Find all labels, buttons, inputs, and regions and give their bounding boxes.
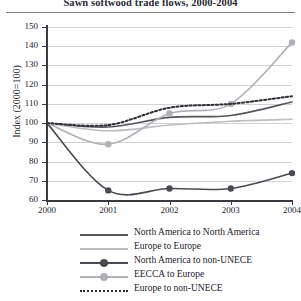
y-tick-label: 90	[0, 136, 38, 146]
plot-area	[47, 27, 292, 200]
legend-label: Europe to Europe	[134, 241, 201, 251]
series-layer	[47, 27, 292, 200]
legend-item-1[interactable]: North America to North America	[78, 228, 301, 242]
legend-swatch	[78, 256, 130, 270]
legend-item-4[interactable]: EECCA to Europe	[78, 270, 301, 284]
x-tick-label: 2000	[25, 205, 69, 215]
x-tick-label: 2002	[148, 205, 192, 215]
legend-label: North America to North America	[134, 227, 260, 237]
y-tick-label: 80	[0, 156, 38, 166]
legend-dashed-line	[80, 290, 128, 292]
y-tick	[42, 46, 47, 47]
legend-line	[80, 248, 128, 250]
chart-figure: Sawn softwood trade flows, 2000-2004 Ind…	[0, 0, 301, 301]
legend-item-3[interactable]: North America to non-UNECE	[78, 256, 301, 270]
y-tick	[42, 123, 47, 124]
series-line	[47, 123, 292, 195]
legend-swatch	[78, 228, 130, 242]
legend-line	[80, 234, 128, 236]
data-point	[105, 141, 111, 147]
x-tick-label: 2004	[270, 205, 301, 215]
legend-swatch	[78, 242, 130, 256]
y-tick-label: 60	[0, 194, 38, 204]
y-tick-label: 130	[0, 59, 38, 69]
legend-label: EECCA to Europe	[134, 269, 204, 279]
title-divider	[6, 12, 295, 13]
y-tick	[42, 27, 47, 28]
y-tick	[42, 181, 47, 182]
y-axis-line	[46, 25, 48, 202]
legend-marker	[100, 273, 108, 281]
legend-item-2[interactable]: Europe to Europe	[78, 242, 301, 256]
data-point	[228, 185, 234, 191]
y-tick	[42, 142, 47, 143]
data-point	[105, 187, 111, 193]
legend-item-5[interactable]: Europe to non-UNECE	[78, 284, 301, 298]
legend-swatch	[78, 284, 130, 298]
data-point	[289, 39, 295, 45]
series-4	[47, 39, 295, 147]
chart-title: Sawn softwood trade flows, 2000-2004	[0, 0, 301, 8]
legend-label: Europe to non-UNECE	[134, 283, 223, 293]
title-band: Sawn softwood trade flows, 2000-2004	[0, 0, 301, 11]
legend-label: North America to non-UNECE	[134, 255, 252, 265]
y-tick	[42, 162, 47, 163]
series-3	[47, 123, 295, 195]
x-tick-label: 2001	[86, 205, 130, 215]
legend-swatch	[78, 270, 130, 284]
y-tick-label: 100	[0, 117, 38, 127]
chart-legend: North America to North AmericaEurope to …	[78, 228, 301, 298]
y-tick	[42, 104, 47, 105]
y-tick	[42, 65, 47, 66]
y-tick-label: 140	[0, 40, 38, 50]
legend-marker	[100, 259, 108, 267]
data-point	[289, 170, 295, 176]
y-tick-label: 70	[0, 175, 38, 185]
y-tick-label: 150	[0, 21, 38, 31]
x-tick-label: 2003	[209, 205, 253, 215]
y-tick-label: 120	[0, 79, 38, 89]
data-point	[166, 185, 172, 191]
data-point	[166, 110, 172, 116]
y-tick-label: 110	[0, 98, 38, 108]
y-tick	[42, 85, 47, 86]
